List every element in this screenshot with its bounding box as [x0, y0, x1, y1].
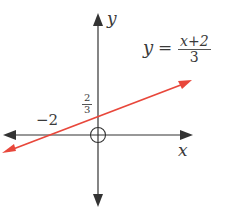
- y-axis-label: y: [107, 8, 117, 28]
- x-intercept-label: −2: [36, 111, 58, 129]
- y-intercept-label: 2 3: [82, 93, 92, 115]
- x-axis-left-arrow-icon: [3, 130, 16, 140]
- equation-denominator: 3: [190, 50, 199, 65]
- equation-numerator: x+2: [178, 34, 211, 50]
- x-axis-right-arrow-icon: [180, 130, 193, 140]
- line-left-arrow-icon: [2, 144, 16, 153]
- y-intercept-numerator: 2: [82, 93, 92, 105]
- equation-lhs: y: [143, 37, 153, 58]
- graph-line: [8, 83, 186, 151]
- y-axis-down-arrow-icon: [93, 194, 103, 207]
- equation-fraction: x+2 3: [178, 34, 211, 64]
- y-axis-up-arrow-icon: [93, 13, 103, 26]
- equation-equals: =: [158, 37, 172, 57]
- line-right-arrow-icon: [178, 80, 192, 89]
- x-axis-label: x: [178, 140, 188, 160]
- y-intercept-denominator: 3: [84, 105, 90, 116]
